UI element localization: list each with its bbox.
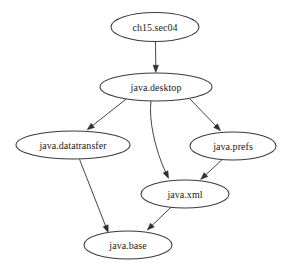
edge-arrowhead-icon (87, 123, 94, 130)
graph-edge (147, 206, 172, 230)
graph-edge (201, 159, 223, 180)
edge-arrowhead-icon (153, 65, 158, 72)
edge-line (150, 101, 166, 173)
graph-svg: ch15.sec04java.desktopjava.datatransferj… (0, 0, 288, 271)
edge-arrowhead-icon (103, 225, 108, 233)
node-label: java.prefs (212, 141, 253, 152)
graph-edge (150, 101, 168, 178)
graph-edge (80, 159, 109, 232)
edge-line (92, 99, 126, 126)
node-label: java.base (108, 240, 147, 251)
edge-arrowhead-icon (163, 171, 169, 179)
node-label: java.datatransfer (38, 140, 107, 151)
graph-edge (87, 99, 126, 130)
edge-line (152, 206, 173, 226)
node-label: java.desktop (130, 82, 182, 93)
graph-node[interactable]: java.base (84, 231, 172, 259)
node-label: java.xml (166, 189, 202, 200)
graph-node[interactable]: java.prefs (190, 132, 276, 160)
graph-node[interactable]: java.xml (141, 180, 229, 208)
graph-node[interactable]: ch15.sec04 (111, 13, 199, 42)
node-label: ch15.sec04 (132, 22, 177, 33)
edge-line (190, 99, 217, 127)
edge-line (205, 159, 223, 176)
nodes-layer: ch15.sec04java.desktopjava.datatransferj… (16, 13, 276, 260)
graph-edge (153, 42, 158, 73)
graph-node[interactable]: java.desktop (100, 73, 212, 101)
graph-edge (190, 99, 221, 131)
edge-line (80, 159, 107, 227)
diagram-canvas: ch15.sec04java.desktopjava.datatransferj… (0, 0, 288, 271)
graph-node[interactable]: java.datatransfer (16, 131, 130, 159)
